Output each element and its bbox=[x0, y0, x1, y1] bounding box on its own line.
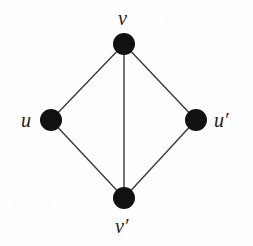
graph-node-v-prime bbox=[113, 187, 135, 209]
edges-group bbox=[51, 44, 196, 198]
vertex-label-v-prime: v′ bbox=[115, 216, 128, 236]
graph-figure: f n t ll l v u u′ v′ bbox=[0, 0, 253, 246]
vertex-label-u: u bbox=[21, 110, 31, 130]
graph-node-u-prime bbox=[185, 109, 207, 131]
edge-v-u-prime bbox=[124, 44, 196, 120]
vertex-label-u-prime: u′ bbox=[214, 110, 228, 130]
edge-v-u bbox=[51, 44, 124, 120]
edge-u-v-prime bbox=[51, 120, 124, 198]
graph-node-u bbox=[40, 109, 62, 131]
edge-u-prime-v-prime bbox=[124, 120, 196, 198]
graph-node-v bbox=[113, 33, 135, 55]
vertex-label-v: v bbox=[118, 8, 127, 28]
